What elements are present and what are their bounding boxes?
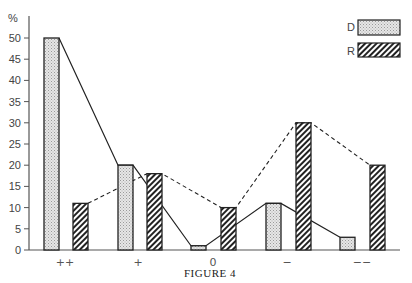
y-tick-label: 10: [9, 202, 21, 214]
bar-r: [296, 123, 311, 250]
bar-r: [73, 203, 88, 250]
figure-caption: FIGURE 4: [184, 267, 236, 279]
bar-r: [147, 174, 162, 250]
bar-r: [370, 165, 385, 250]
y-tick-label: 50: [9, 32, 21, 44]
y-tick-label: 0: [15, 244, 21, 256]
bars: [44, 38, 385, 250]
x-tick-label: +: [133, 256, 142, 269]
bar-chart: % 05101520253035404550 +++0−−− D R FIGUR…: [0, 0, 412, 283]
bar-d: [266, 203, 281, 250]
y-tick-label: 15: [9, 180, 21, 192]
legend-label-r: R: [347, 45, 355, 57]
y-tick-label: 5: [15, 223, 21, 235]
y-axis-label: %: [8, 12, 18, 24]
bar-d: [118, 165, 133, 250]
bar-d: [191, 246, 206, 250]
x-tick-label: ++: [56, 256, 74, 269]
legend-swatch-r: [358, 43, 400, 57]
y-tick-label: 45: [9, 53, 21, 65]
bar-d: [340, 237, 355, 250]
legend-label-d: D: [347, 21, 355, 33]
y-tick-label: 40: [9, 74, 21, 86]
y-tick-label: 25: [9, 138, 21, 150]
x-tick-label: −−: [353, 256, 371, 269]
y-tick-label: 35: [9, 96, 21, 108]
y-tick-label: 20: [9, 159, 21, 171]
y-tick-label: 30: [9, 117, 21, 129]
x-tick-label: −: [282, 256, 291, 269]
legend-swatch-d: [358, 20, 400, 35]
series-lines: [59, 38, 370, 246]
y-axis: % 05101520253035404550: [8, 12, 29, 256]
bar-r: [221, 208, 236, 250]
legend: D R: [347, 20, 400, 57]
bar-d: [44, 38, 59, 250]
